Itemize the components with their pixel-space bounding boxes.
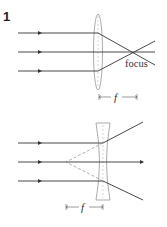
ray-arrow-icon — [38, 50, 42, 54]
focal-length-label: f — [81, 201, 86, 213]
lens-diagram: focus f — [0, 0, 167, 227]
ray-arrow-icon — [38, 31, 42, 35]
focal-length-marker: f — [99, 91, 137, 103]
ray-arrow-icon — [38, 141, 42, 145]
convex-lens-diagram: focus f — [18, 14, 155, 103]
ray-arrow-icon — [38, 160, 42, 164]
concave-lens-diagram: f — [18, 122, 144, 213]
focus-label: focus — [125, 58, 148, 69]
ray-arrow-icon — [140, 160, 144, 164]
focal-length-label: f — [114, 91, 119, 103]
ray-arrow-icon — [38, 69, 42, 73]
ray-arrow-icon — [38, 179, 42, 183]
focal-length-marker: f — [66, 201, 103, 213]
